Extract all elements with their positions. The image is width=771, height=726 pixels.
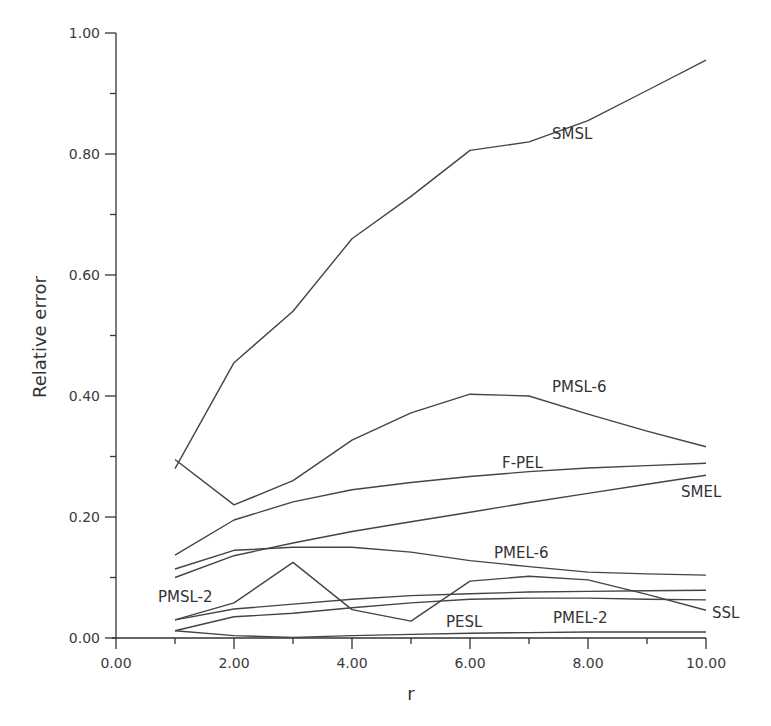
- series-line-f-pel: [175, 463, 706, 555]
- x-tick-label: 4.00: [336, 655, 367, 671]
- x-tick-label: 10.00: [686, 655, 726, 671]
- series-label-pmel-2: PMEL-2: [553, 609, 608, 627]
- y-tick-label: 0.40: [69, 388, 100, 404]
- x-tick-label: 2.00: [218, 655, 249, 671]
- y-tick-label: 1.00: [69, 25, 100, 41]
- axes: [112, 33, 706, 638]
- series-line-pmsl-2: [175, 562, 706, 621]
- series-label-pmel-6: PMEL-6: [494, 544, 549, 562]
- x-axis-title: r: [407, 683, 415, 704]
- x-tick-label: 0.00: [100, 655, 131, 671]
- y-tick-label: 0.80: [69, 146, 100, 162]
- x-tick-label: 8.00: [572, 655, 603, 671]
- series-labels: SMSLPMSL-6F-PELSMELPMEL-6SSLPMSL-2PMEL-2…: [158, 125, 740, 631]
- y-axis-ticks: 0.000.200.400.600.801.00: [69, 25, 116, 646]
- x-axis-ticks: 0.002.004.006.008.0010.00: [100, 638, 726, 671]
- series-label-ssl: SSL: [712, 604, 740, 622]
- y-tick-label: 0.20: [69, 509, 100, 525]
- series-line-pmsl-6: [175, 394, 706, 505]
- series-label-pmsl-2: PMSL-2: [158, 588, 213, 606]
- series-line-smsl: [175, 60, 706, 468]
- line-chart: 0.000.200.400.600.801.00 0.002.004.006.0…: [0, 0, 771, 726]
- series-label-f-pel: F-PEL: [502, 454, 544, 472]
- series-label-smel: SMEL: [681, 483, 722, 501]
- y-tick-label: 0.60: [69, 267, 100, 283]
- series-label-pesl: PESL: [446, 613, 483, 631]
- series-label-pmsl-6: PMSL-6: [552, 378, 607, 396]
- series-label-smsl: SMSL: [552, 125, 593, 143]
- series-lines: [175, 60, 706, 637]
- series-line-smel: [175, 475, 706, 577]
- y-axis-title: Relative error: [29, 275, 50, 397]
- series-line-pmel-2: [175, 598, 706, 631]
- series-line-pesl: [175, 631, 706, 638]
- x-tick-label: 6.00: [454, 655, 485, 671]
- y-tick-label: 0.00: [69, 630, 100, 646]
